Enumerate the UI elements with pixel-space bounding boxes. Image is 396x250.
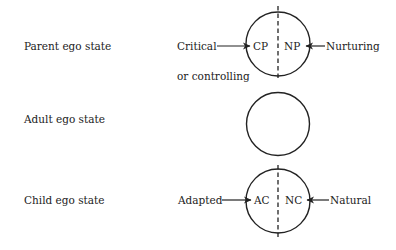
np-label: NP — [284, 40, 300, 52]
ac-label: AC — [254, 194, 270, 206]
parent-ego-circle-group — [217, 6, 325, 79]
child-ego-state-label: Child ego state — [24, 194, 104, 206]
adult-ego-state-label: Adult ego state — [24, 113, 105, 125]
diagram-graphics — [0, 0, 396, 250]
adult-circle — [247, 93, 310, 156]
natural-label: Natural — [330, 194, 371, 206]
cp-label: CP — [253, 40, 268, 52]
critical-label: Critical — [177, 40, 217, 52]
ego-state-diagram: Parent ego state Adult ego state Child e… — [0, 0, 396, 250]
parent-ego-state-label: Parent ego state — [24, 40, 111, 52]
adult-ego-circle-group — [247, 93, 310, 156]
nurturing-label: Nurturing — [326, 40, 380, 52]
or-controlling-label: or controlling — [177, 70, 250, 82]
child-ego-circle-group — [222, 165, 329, 238]
nc-label: NC — [285, 194, 302, 206]
adapted-label: Adapted — [178, 194, 222, 206]
